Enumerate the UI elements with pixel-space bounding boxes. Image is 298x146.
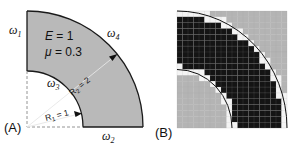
grid-cell xyxy=(199,40,205,46)
grid-cell xyxy=(205,93,211,99)
grid-cell xyxy=(183,23,189,29)
grid-cell xyxy=(249,46,255,52)
grid-cell xyxy=(221,46,227,52)
grid-cell xyxy=(221,110,227,116)
grid-cell xyxy=(249,64,255,70)
grid-cell xyxy=(232,17,238,23)
grid-cell xyxy=(194,105,200,111)
grid-cell xyxy=(243,11,249,17)
grid-cell xyxy=(205,110,211,116)
grid-cell xyxy=(199,34,205,40)
grid-cell xyxy=(260,75,266,81)
grid-cell xyxy=(177,70,183,76)
grid-cell xyxy=(216,52,222,58)
grid-cell xyxy=(260,105,266,111)
grid-cell xyxy=(282,52,288,58)
grid-cell xyxy=(265,93,271,99)
grid-cell xyxy=(238,58,244,64)
grid-cell xyxy=(238,70,244,76)
grid-cell xyxy=(227,52,233,58)
grid-cell xyxy=(265,116,271,122)
grid-cell xyxy=(249,93,255,99)
grid-cell xyxy=(243,70,249,76)
grid-cell xyxy=(205,58,211,64)
grid-cell xyxy=(199,46,205,52)
grid-cell xyxy=(221,52,227,58)
grid-cell xyxy=(243,122,249,128)
grid-cell xyxy=(177,87,183,93)
grid-cell xyxy=(194,11,200,17)
panel-label-b: (B) xyxy=(155,125,172,140)
grid-cell xyxy=(227,58,233,64)
grid-cell xyxy=(249,70,255,76)
grid-cell xyxy=(177,99,183,105)
grid-cell xyxy=(188,116,194,122)
grid-cell xyxy=(232,75,238,81)
grid-cell xyxy=(260,34,266,40)
grid-cell xyxy=(249,105,255,111)
grid-cell xyxy=(243,52,249,58)
grid-cell xyxy=(254,17,260,23)
grid-cell xyxy=(260,93,266,99)
grid-cell xyxy=(199,52,205,58)
grid-cell xyxy=(183,99,189,105)
panel-b: (B) xyxy=(155,11,287,140)
grid-cell xyxy=(238,99,244,105)
grid-cell xyxy=(183,75,189,81)
grid-cell xyxy=(199,105,205,111)
grid-cell xyxy=(177,11,183,17)
grid-cell xyxy=(243,99,249,105)
grid-cell xyxy=(271,29,277,35)
grid-cell xyxy=(276,64,282,70)
label-poisson-ratio: μ = 0.3 xyxy=(44,45,82,59)
grid-cell xyxy=(282,58,288,64)
grid-cell xyxy=(265,75,271,81)
grid-cell xyxy=(177,81,183,87)
grid-cell xyxy=(221,122,227,128)
grid-cell xyxy=(216,58,222,64)
grid-cell xyxy=(210,70,216,76)
grid-cell xyxy=(249,17,255,23)
grid-cell xyxy=(194,17,200,23)
grid-cell xyxy=(243,40,249,46)
panel-label-a: (A) xyxy=(4,120,21,135)
grid-cell xyxy=(183,52,189,58)
grid-cell xyxy=(194,110,200,116)
grid-cell xyxy=(249,58,255,64)
grid-cell xyxy=(188,105,194,111)
grid-cell xyxy=(199,122,205,128)
grid-cell xyxy=(260,87,266,93)
grid-cell xyxy=(177,34,183,40)
grid-cell xyxy=(276,29,282,35)
grid-cell xyxy=(183,93,189,99)
grid-cell xyxy=(238,64,244,70)
grid-cell xyxy=(243,17,249,23)
grid-cell xyxy=(216,105,222,111)
grid-cell xyxy=(205,64,211,70)
grid-cell xyxy=(177,17,183,23)
grid-cell xyxy=(254,105,260,111)
grid-cell xyxy=(238,34,244,40)
grid-cell xyxy=(227,81,233,87)
grid-cell xyxy=(183,110,189,116)
grid-cell xyxy=(265,81,271,87)
grid-cell xyxy=(232,122,238,128)
grid-cell xyxy=(194,52,200,58)
grid-cell xyxy=(265,87,271,93)
grid-cell xyxy=(260,70,266,76)
grid-cell xyxy=(227,93,233,99)
grid-cell xyxy=(260,116,266,122)
grid-cell xyxy=(238,75,244,81)
grid-cell xyxy=(227,70,233,76)
grid-cell xyxy=(276,105,282,111)
grid-cell xyxy=(254,81,260,87)
grid-cell xyxy=(232,116,238,122)
grid-cell xyxy=(188,23,194,29)
grid-cell xyxy=(276,40,282,46)
grid-cell xyxy=(177,23,183,29)
grid-cell xyxy=(249,81,255,87)
grid-cell xyxy=(282,70,288,76)
grid-cell xyxy=(238,40,244,46)
grid-cell xyxy=(271,34,277,40)
grid-cell xyxy=(282,87,288,93)
